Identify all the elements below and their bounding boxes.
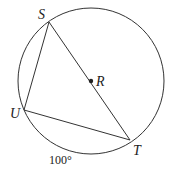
segment-ut (24, 110, 130, 140)
circle-diagram: S R U T 100° (0, 0, 169, 174)
arc-label-100: 100° (49, 153, 72, 167)
label-t: T (133, 143, 142, 158)
label-r: R (95, 74, 105, 89)
label-u: U (10, 106, 21, 121)
segment-su (24, 22, 49, 110)
center-point-r (89, 79, 93, 83)
label-s: S (38, 7, 45, 22)
